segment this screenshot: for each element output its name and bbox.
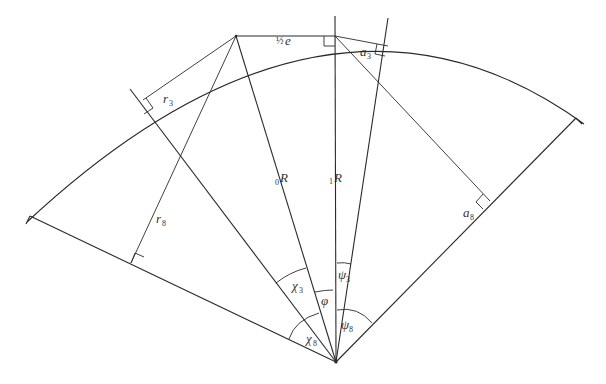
- r3-perpendicular: [143, 36, 236, 100]
- sector-diagram: ½ e a 3 a 8 r 3 r 8 0 R 1 R χ 3 χ 8 φ ψ …: [0, 0, 606, 384]
- svg-text:e: e: [285, 33, 291, 48]
- svg-text:φ: φ: [321, 293, 328, 308]
- chi3-angle-arc: [276, 268, 306, 283]
- svg-text:8: 8: [470, 213, 474, 222]
- label-r8: r 8: [156, 211, 166, 228]
- label-r3: r 3: [163, 91, 173, 108]
- right-angle-marker-r3: [144, 98, 153, 114]
- right-boundary-line: [336, 118, 576, 362]
- r8-perpendicular: [131, 36, 236, 263]
- label-chi3: χ 3: [290, 278, 303, 295]
- label-half-e: ½ e: [276, 33, 291, 48]
- svg-text:3: 3: [367, 52, 371, 61]
- label-a3: a 3: [360, 44, 371, 61]
- phi-angle-arc: [315, 290, 333, 292]
- left-boundary-line: [30, 216, 336, 362]
- svg-text:0: 0: [275, 178, 279, 187]
- svg-text:R: R: [279, 170, 288, 185]
- svg-text:3: 3: [169, 99, 173, 108]
- svg-text:½: ½: [276, 35, 284, 46]
- svg-text:3: 3: [346, 275, 350, 284]
- label-1R: 1 R: [329, 170, 342, 186]
- svg-text:χ: χ: [304, 331, 312, 346]
- apex-point: [334, 360, 337, 363]
- right-angle-marker-half-e: [324, 36, 335, 46]
- svg-text:a: a: [360, 44, 367, 59]
- radius-1R-line: [335, 16, 336, 362]
- svg-text:a: a: [463, 205, 470, 220]
- label-0R: 0 R: [275, 170, 288, 187]
- right-angle-marker-r8: [131, 253, 144, 263]
- outer-arc: [27, 51, 584, 222]
- right-end-tick: [576, 118, 582, 124]
- radius-0R-line: [236, 36, 336, 362]
- svg-text:χ: χ: [290, 278, 298, 293]
- psi3-ray-line: [336, 18, 388, 362]
- label-psi8: ψ 8: [341, 317, 353, 334]
- svg-text:3: 3: [299, 286, 303, 295]
- chi8-angle-arc: [289, 313, 319, 339]
- svg-text:8: 8: [162, 219, 166, 228]
- psi3-angle-arc: [337, 263, 351, 264]
- label-phi: φ: [321, 293, 328, 308]
- svg-text:8: 8: [349, 325, 353, 334]
- svg-text:1: 1: [329, 177, 333, 186]
- svg-text:R: R: [333, 170, 342, 185]
- a8-perpendicular: [335, 36, 490, 201]
- label-a8: a 8: [463, 205, 474, 222]
- label-psi3: ψ 3: [338, 267, 350, 284]
- svg-text:8: 8: [313, 339, 317, 348]
- right-angle-marker-a8: [476, 194, 483, 209]
- point-p: [235, 35, 238, 38]
